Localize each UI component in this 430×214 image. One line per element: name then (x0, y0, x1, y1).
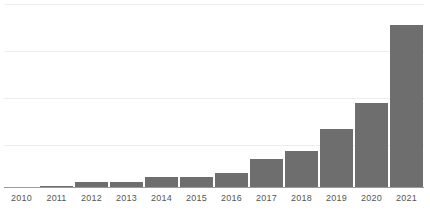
x-axis-label: 2012 (74, 191, 109, 205)
bar-slot (74, 0, 109, 188)
x-axis-label: 2021 (389, 191, 424, 205)
bar-slot (214, 0, 249, 188)
x-axis-label: 2014 (144, 191, 179, 205)
bar[interactable] (215, 173, 248, 188)
x-axis-label: 2018 (284, 191, 319, 205)
x-axis-label: 2013 (109, 191, 144, 205)
bar-slot (389, 0, 424, 188)
x-axis-label: 2011 (39, 191, 74, 205)
bar[interactable] (355, 103, 388, 188)
x-axis-label: 2016 (214, 191, 249, 205)
bar[interactable] (320, 129, 353, 188)
bar-slot (4, 0, 39, 188)
bar-slot (179, 0, 214, 188)
bar-slot (144, 0, 179, 188)
bar-slot (354, 0, 389, 188)
x-axis-label: 2015 (179, 191, 214, 205)
bar[interactable] (285, 151, 318, 188)
bar-slot (39, 0, 74, 188)
x-axis-label: 2017 (249, 191, 284, 205)
chart-plot-area (0, 0, 430, 188)
x-axis-label: 2010 (4, 191, 39, 205)
bar[interactable] (390, 25, 423, 188)
x-axis-label: 2020 (354, 191, 389, 205)
x-axis-line (4, 187, 424, 188)
bar-slot (319, 0, 354, 188)
x-axis-tick-labels: 2010201120122013201420152016201720182019… (0, 191, 430, 211)
bar-slot (284, 0, 319, 188)
bar[interactable] (250, 159, 283, 188)
bar-chart: 2010201120122013201420152016201720182019… (0, 0, 430, 214)
bar-slot (249, 0, 284, 188)
bar-slot (109, 0, 144, 188)
x-axis-label: 2019 (319, 191, 354, 205)
